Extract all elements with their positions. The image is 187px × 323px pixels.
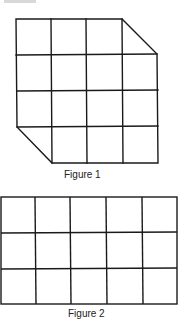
figure-2-caption: Figure 2 <box>68 308 105 319</box>
figure-2-diagram <box>0 0 187 323</box>
figure-2-outline <box>1 197 177 304</box>
